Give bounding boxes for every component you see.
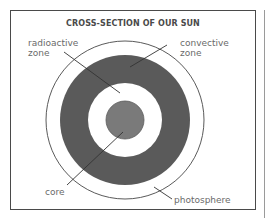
- core: [106, 101, 144, 139]
- label-convective-line1: convective: [180, 38, 229, 48]
- label-convective-zone: convective zone: [180, 38, 229, 58]
- label-core: core: [45, 187, 65, 197]
- label-radioactive-zone: radioactive zone: [28, 38, 78, 58]
- label-radioactive-line2: zone: [28, 48, 78, 58]
- label-radioactive-line1: radioactive: [28, 38, 78, 48]
- sun-cross-section: [0, 0, 267, 218]
- label-photosphere: photosphere: [174, 195, 231, 205]
- label-convective-line2: zone: [180, 48, 229, 58]
